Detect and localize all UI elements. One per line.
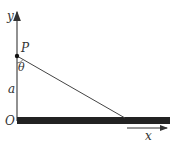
origin-label: O (5, 114, 15, 128)
surface-bar (17, 117, 170, 124)
x-axis-label: x (145, 129, 152, 143)
point-label: P (20, 41, 30, 55)
angle-label: θ (18, 61, 25, 74)
ray-line (17, 56, 125, 118)
point-p (15, 54, 19, 58)
distance-label: a (8, 82, 15, 96)
y-axis-label: y (6, 9, 14, 23)
diagram: y P θ a O x (0, 0, 176, 151)
